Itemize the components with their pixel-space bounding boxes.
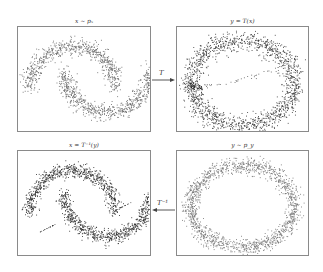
panel-source-distribution: x ∼ pₓ: [17, 26, 151, 132]
scatter-two-moons-inverse: [17, 150, 151, 256]
scatter-two-moons: [17, 26, 151, 132]
panel-title: x ∼ pₓ: [17, 17, 151, 24]
panel-inverse-samples: x = T⁻¹(y): [17, 150, 151, 256]
arrow-left-icon: [151, 200, 176, 216]
panel-title: x = T⁻¹(y): [17, 141, 151, 148]
panel-title: y = T(x): [176, 17, 309, 24]
panel-target-distribution: y ∼ p_y: [176, 150, 309, 256]
arrow-right-icon: [151, 70, 176, 86]
scatter-ring-transformed: [176, 26, 309, 132]
scatter-ring-target: [176, 150, 309, 256]
forward-transform-arrow: T: [151, 70, 176, 86]
panel-title: y ∼ p_y: [176, 141, 309, 148]
panel-transformed-samples: y = T(x): [176, 26, 309, 132]
inverse-transform-arrow: T⁻¹: [151, 200, 176, 216]
